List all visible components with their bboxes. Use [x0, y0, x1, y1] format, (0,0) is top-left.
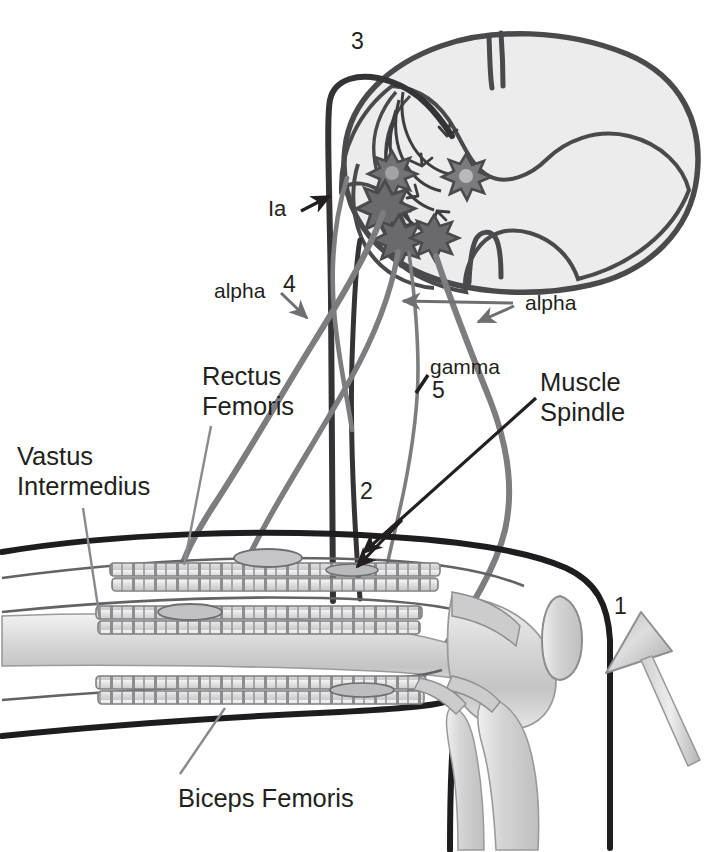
muscle-spindle-vastus: [158, 604, 222, 620]
muscle-spindle-biceps: [330, 683, 394, 697]
alpha-left-label: alpha: [214, 279, 265, 303]
marker-5-label: 5: [432, 377, 445, 403]
marker-2-label: 2: [360, 478, 373, 504]
muscle-spindle-rectus-2: [326, 564, 378, 576]
reflex-hammer: [606, 612, 700, 766]
leader-ia: [301, 196, 330, 211]
thigh-skin-lower-contour: [2, 700, 452, 736]
marker-1-label: 1: [614, 593, 627, 619]
rectus-femoris-label-line1: Rectus: [202, 362, 281, 391]
vastus-intermedius-label-line1: Vastus: [17, 442, 93, 471]
muscle-spindle-rectus: [234, 549, 302, 567]
leader-rectus-femoris: [184, 426, 211, 565]
muscle-spindle-label-line1: Muscle: [540, 368, 621, 397]
dorsal-median-fissure: [489, 36, 492, 88]
rectus-femoris-label-line2: Femoris: [202, 392, 294, 421]
ia-afferent-distal-branch: [351, 240, 360, 599]
diagram-canvas: 3 Ia alpha 4 alpha gamma 5 Rectus Femori…: [0, 0, 717, 852]
marker-4-label: 4: [283, 271, 296, 297]
ia-label: Ia: [268, 196, 286, 221]
gamma-label: gamma: [430, 355, 500, 379]
alpha-right-label: alpha: [525, 291, 576, 315]
marker-3-label: 3: [351, 28, 364, 54]
muscle-spindle-label-line2: Spindle: [540, 398, 625, 427]
interneuron-soma: [442, 154, 491, 200]
hammer-handle: [641, 656, 700, 766]
hammer-head: [606, 612, 672, 673]
motor-neuron-soma-1: [368, 151, 417, 197]
biceps-femoris-label: Biceps Femoris: [178, 784, 354, 813]
vastus-intermedius-muscle: [96, 604, 422, 634]
leader-alpha-right-main: [403, 301, 513, 303]
patella: [542, 596, 582, 680]
vastus-intermedius-label-line2: Intermedius: [17, 472, 150, 501]
spinal-cord-group: [341, 33, 698, 292]
leader-alpha-right-branch: [478, 306, 514, 322]
